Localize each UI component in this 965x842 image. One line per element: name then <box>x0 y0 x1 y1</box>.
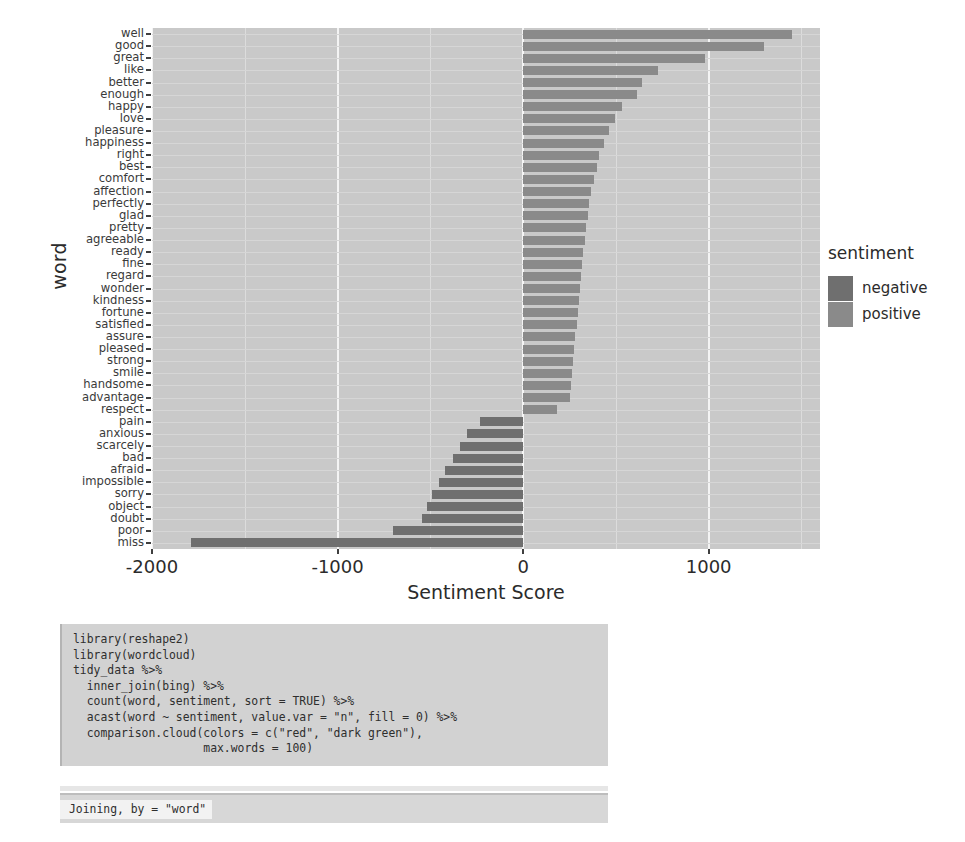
gridline-horizontal <box>152 313 820 314</box>
y-axis-tick-mark <box>146 45 151 47</box>
bar <box>523 393 570 402</box>
bar <box>523 260 582 269</box>
x-axis-tick-labels: -2000-100001000 <box>152 556 820 580</box>
y-axis-tick-mark <box>146 94 151 96</box>
bar <box>523 320 576 329</box>
y-axis-tick-label: regard <box>106 270 144 281</box>
legend-entry: negative <box>828 275 958 301</box>
gridline-horizontal <box>152 385 820 386</box>
x-axis-tick-mark <box>337 549 339 554</box>
bar <box>523 236 585 245</box>
y-axis-tick-mark <box>146 469 151 471</box>
bar <box>523 66 658 75</box>
y-axis-tick-mark <box>146 312 151 314</box>
bar <box>523 223 586 232</box>
y-axis-tick-label: comfort <box>99 173 144 184</box>
y-axis-tick-label: handsome <box>83 379 144 390</box>
y-axis-tick-label: advantage <box>82 392 144 403</box>
y-axis-tick-mark <box>146 33 151 35</box>
y-axis-tick-mark <box>146 203 151 205</box>
y-axis-tick-label: affection <box>93 186 144 197</box>
legend: sentiment negativepositive <box>828 243 958 327</box>
bar <box>523 211 588 220</box>
gridline-horizontal <box>152 167 820 168</box>
code-line[interactable]: tidy_data %>% <box>62 663 608 679</box>
gridline-horizontal <box>152 58 820 59</box>
code-line[interactable]: acast(word ~ sentiment, value.var = "n",… <box>62 710 608 726</box>
x-axis-tick-label: -2000 <box>126 556 178 577</box>
bar <box>191 538 523 547</box>
y-axis-tick-mark <box>146 275 151 277</box>
y-axis-tick-mark <box>146 457 151 459</box>
code-cell[interactable]: library(reshape2)library(wordcloud)tidy_… <box>60 624 608 766</box>
gridline-horizontal <box>152 155 820 156</box>
legend-swatch <box>828 276 853 301</box>
gridline-horizontal <box>152 410 820 411</box>
code-line[interactable]: count(word, sentiment, sort = TRUE) %>% <box>62 694 608 710</box>
y-axis-tick-mark <box>146 191 151 193</box>
gridline-horizontal <box>152 337 820 338</box>
gridline-horizontal <box>152 143 820 144</box>
legend-keys: negativepositive <box>828 275 958 327</box>
gridline-horizontal <box>152 301 820 302</box>
bar <box>523 345 574 354</box>
y-axis-tick-mark <box>146 142 151 144</box>
plot-panel <box>152 28 820 549</box>
y-axis-tick-mark <box>146 166 151 168</box>
bar <box>523 187 591 196</box>
legend-label: positive <box>862 305 921 323</box>
y-axis-tick-mark <box>146 324 151 326</box>
gridline-horizontal <box>152 204 820 205</box>
bar <box>439 478 523 487</box>
y-axis-tick-mark <box>146 227 151 229</box>
bar <box>523 296 579 305</box>
bar <box>393 526 523 535</box>
y-axis-tick-mark <box>146 57 151 59</box>
y-axis-tick-mark <box>146 360 151 362</box>
y-axis-tick-mark <box>146 106 151 108</box>
bar <box>523 151 599 160</box>
y-axis-tick-mark <box>146 178 151 180</box>
gridline-horizontal <box>152 349 820 350</box>
y-axis-tick-mark <box>146 397 151 399</box>
bar <box>523 248 583 257</box>
y-axis-tick-mark <box>146 300 151 302</box>
y-axis-tick-label: miss <box>117 537 144 548</box>
gridline-horizontal <box>152 216 820 217</box>
y-axis-tick-mark <box>146 409 151 411</box>
y-axis-tick-label: sorry <box>115 488 144 499</box>
gridline-horizontal <box>152 373 820 374</box>
code-line[interactable]: library(reshape2) <box>62 632 608 648</box>
bar <box>523 175 594 184</box>
gridline-horizontal <box>152 398 820 399</box>
gridline-horizontal <box>152 361 820 362</box>
y-axis-tick-mark <box>146 215 151 217</box>
y-axis-tick-mark <box>146 82 151 84</box>
bar <box>523 54 705 63</box>
gridline-horizontal <box>152 107 820 108</box>
gridline-horizontal <box>152 83 820 84</box>
y-axis-tick-mark <box>146 372 151 374</box>
code-line[interactable]: max.words = 100) <box>62 741 608 757</box>
y-axis-tick-label: like <box>124 64 144 75</box>
bar <box>523 139 604 148</box>
x-axis-tick-label: 1000 <box>686 556 732 577</box>
bar <box>523 163 596 172</box>
bar <box>427 502 523 511</box>
bar <box>460 442 523 451</box>
code-line[interactable]: comparison.cloud(colors = c("red", "dark… <box>62 726 608 742</box>
bar <box>523 102 622 111</box>
y-axis-tick-mark <box>146 542 151 544</box>
code-line[interactable]: inner_join(bing) %>% <box>62 679 608 695</box>
bar <box>523 272 581 281</box>
code-line[interactable]: library(wordcloud) <box>62 648 608 664</box>
x-axis-tick-label: 0 <box>517 556 528 577</box>
legend-entry: positive <box>828 301 958 327</box>
bar <box>467 429 523 438</box>
output-cell-divider <box>60 786 608 791</box>
bar <box>523 114 615 123</box>
gridline-horizontal <box>152 179 820 180</box>
y-axis-tick-mark <box>146 506 151 508</box>
y-axis-tick-label: wonder <box>101 283 144 294</box>
y-axis-tick-mark <box>146 421 151 423</box>
